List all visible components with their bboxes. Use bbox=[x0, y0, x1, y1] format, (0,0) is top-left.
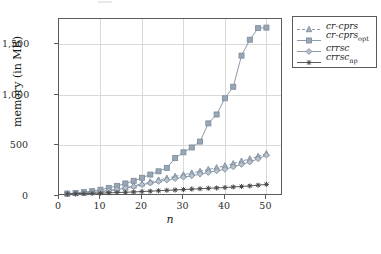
data-point-plus bbox=[256, 183, 261, 188]
x-axis-title: n bbox=[58, 213, 282, 226]
x-tick-label: 50 bbox=[259, 200, 271, 211]
data-point-plus bbox=[231, 184, 236, 189]
data-point-plus bbox=[148, 189, 153, 194]
legend[interactable]: cr-cprscr-cprsoptcrrsccrrscnp bbox=[292, 16, 377, 68]
data-point-plus bbox=[81, 191, 86, 196]
data-point-square bbox=[189, 145, 194, 150]
data-point-square bbox=[231, 84, 236, 89]
y-tick-mark bbox=[54, 94, 58, 95]
data-point-square bbox=[131, 178, 136, 183]
y-tick-mark bbox=[54, 43, 58, 44]
x-tick-label: 40 bbox=[218, 200, 230, 211]
legend-item-crrsc_np[interactable]: crrscnp bbox=[296, 53, 372, 64]
data-point-plus bbox=[222, 185, 227, 190]
data-point-plus bbox=[307, 60, 312, 65]
plot-area bbox=[58, 18, 282, 195]
data-point-plus bbox=[90, 191, 95, 196]
legend-label: crrscnp bbox=[322, 52, 358, 65]
data-point-square bbox=[247, 37, 252, 42]
data-point-square bbox=[181, 150, 186, 155]
series-line bbox=[67, 154, 266, 194]
series-layer bbox=[59, 19, 283, 196]
data-point-plus bbox=[181, 187, 186, 192]
data-point-diamond bbox=[139, 182, 145, 188]
data-point-square bbox=[214, 112, 219, 117]
data-point-plus bbox=[173, 187, 178, 192]
data-point-plus bbox=[198, 186, 203, 191]
data-point-plus bbox=[156, 188, 161, 193]
data-point-square bbox=[222, 96, 227, 101]
cropped-caption-artifact bbox=[90, 0, 310, 5]
data-point-plus bbox=[239, 184, 244, 189]
legend-item-cr-cprs_opt[interactable]: cr-cprsopt bbox=[296, 31, 372, 42]
x-tick-label: 20 bbox=[135, 200, 147, 211]
data-point-diamond bbox=[264, 152, 270, 158]
legend-symbol-triangle-icon bbox=[296, 20, 322, 31]
x-axis-tick-labels: 01020304050 bbox=[58, 198, 282, 212]
data-point-square bbox=[139, 175, 144, 180]
legend-symbol-plus-icon bbox=[296, 53, 322, 64]
data-point-plus bbox=[65, 191, 70, 196]
data-point-square bbox=[256, 26, 261, 31]
data-point-plus bbox=[189, 187, 194, 192]
data-point-plus bbox=[123, 190, 128, 195]
legend-label: cr-cprs bbox=[322, 21, 358, 31]
x-tick-label: 10 bbox=[93, 200, 105, 211]
data-point-plus bbox=[164, 188, 169, 193]
series-cr-cprs_opt bbox=[65, 25, 269, 196]
data-point-square bbox=[206, 121, 211, 126]
legend-symbol-square-icon bbox=[296, 31, 322, 42]
data-point-plus bbox=[106, 190, 111, 195]
data-point-square bbox=[164, 165, 169, 170]
data-point-plus bbox=[214, 185, 219, 190]
y-axis-title: memory (in MB) bbox=[11, 17, 24, 147]
y-tick-mark bbox=[54, 144, 58, 145]
data-point-square bbox=[148, 172, 153, 177]
y-tick-label: 0 bbox=[2, 190, 28, 201]
data-point-plus bbox=[131, 189, 136, 194]
data-point-plus bbox=[247, 183, 252, 188]
data-point-square bbox=[198, 139, 203, 144]
data-point-square bbox=[156, 169, 161, 174]
legend-label: crrsc bbox=[322, 43, 349, 53]
data-point-plus bbox=[139, 189, 144, 194]
data-point-square bbox=[173, 156, 178, 161]
data-point-plus bbox=[115, 190, 120, 195]
data-point-plus bbox=[206, 186, 211, 191]
legend-symbol-diamond-icon bbox=[296, 42, 322, 53]
data-point-plus bbox=[73, 191, 78, 196]
chart-figure: 05001,0001,500 01020304050 memory (in MB… bbox=[0, 0, 381, 254]
series-crrsc_np bbox=[65, 182, 269, 197]
x-tick-label: 0 bbox=[55, 200, 61, 211]
legend-label: cr-cprsopt bbox=[322, 30, 369, 43]
data-point-square bbox=[264, 25, 269, 30]
data-point-diamond bbox=[156, 179, 162, 185]
data-point-plus bbox=[264, 182, 269, 187]
data-point-square bbox=[239, 53, 244, 58]
x-tick-label: 30 bbox=[176, 200, 188, 211]
